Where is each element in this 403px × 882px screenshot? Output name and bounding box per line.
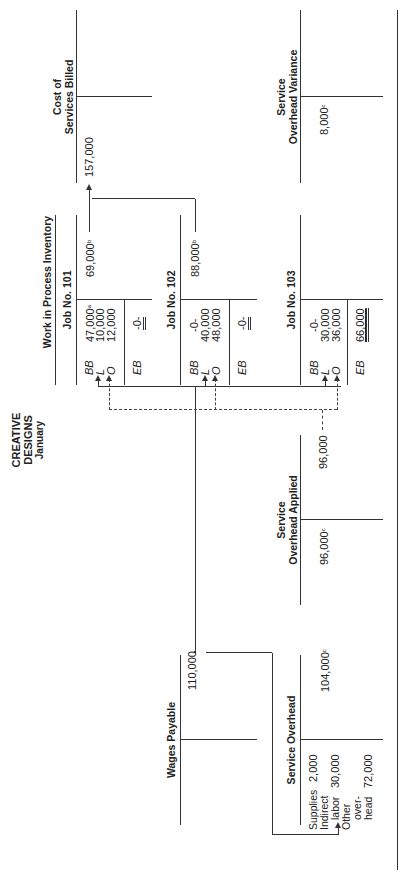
debit-label-head: head: [363, 797, 374, 820]
t-stem: [300, 739, 383, 740]
credit-value: 110,000: [187, 651, 198, 690]
job-title: Job No. 102: [166, 250, 178, 350]
credit-value: 104,000c: [319, 649, 331, 692]
t-top-bar: [180, 215, 181, 385]
arrow-labor-101: [95, 375, 101, 381]
account-title: Service Overhead Variance: [276, 37, 299, 157]
connector-102-to-cost: [92, 198, 195, 199]
eb-rule: [124, 300, 125, 385]
wip-group-rule: [55, 215, 56, 385]
labor-connector: [195, 387, 196, 653]
t-account-diagram: CREATIVE DESIGNS January Wages Payable 1…: [0, 0, 403, 882]
debit-value: 2,000: [308, 754, 319, 782]
overhead-applied-connector: [322, 410, 323, 430]
bottom-rule: [397, 10, 398, 870]
t-top-bar: [300, 655, 301, 825]
arrow-labor-103: [322, 375, 328, 381]
t-stem: [180, 739, 257, 740]
t-stem: [300, 519, 383, 520]
t-top-bar: [300, 435, 301, 605]
job-title: Job No. 103: [286, 250, 298, 350]
debit-value: 30,000: [330, 754, 341, 788]
diagram-title: CREATIVE DESIGNS January: [10, 390, 46, 490]
arrow-labor-102: [202, 375, 208, 381]
account-title: Service Overhead: [286, 680, 298, 800]
t-stem: [76, 299, 152, 300]
labor-bus: [98, 386, 341, 387]
t-stem: [300, 299, 383, 300]
arrow-overhead-103: [334, 375, 340, 381]
arrow-overhead-102: [212, 375, 218, 381]
overhead-bus: [109, 409, 337, 410]
account-title: Service Overhead Applied: [276, 460, 299, 580]
eb-rule: [347, 300, 348, 385]
debit-value: 157,000: [84, 137, 95, 177]
eb-rule: [229, 300, 230, 385]
t-stem: [76, 96, 152, 97]
period-label: January: [34, 390, 46, 490]
account-title: Wages Payable: [166, 680, 178, 800]
t-top-bar: [76, 215, 77, 385]
arrow-into-cost-of-services: [86, 184, 92, 190]
debit-value: 96,000c: [318, 528, 330, 565]
t-stem: [300, 96, 383, 97]
credit-value: 96,000: [318, 435, 329, 469]
debit-value: 72,000: [363, 754, 374, 788]
t-top-bar: [180, 655, 181, 825]
arrow-overhead-101: [106, 375, 112, 381]
company-name: CREATIVE DESIGNS: [10, 390, 34, 490]
t-top-bar: [300, 215, 301, 385]
arrow-into-service-overhead: [335, 822, 341, 828]
t-stem: [180, 299, 257, 300]
connector-101-to-cost: [89, 188, 90, 232]
job-title: Job No. 101: [62, 250, 74, 350]
connector-wages-to-overhead: [206, 652, 272, 653]
debit-value: 8,000c: [318, 104, 330, 135]
wip-group-title: Work in Process Inventory: [42, 202, 54, 362]
account-title: Cost of Services Billed: [52, 37, 75, 157]
